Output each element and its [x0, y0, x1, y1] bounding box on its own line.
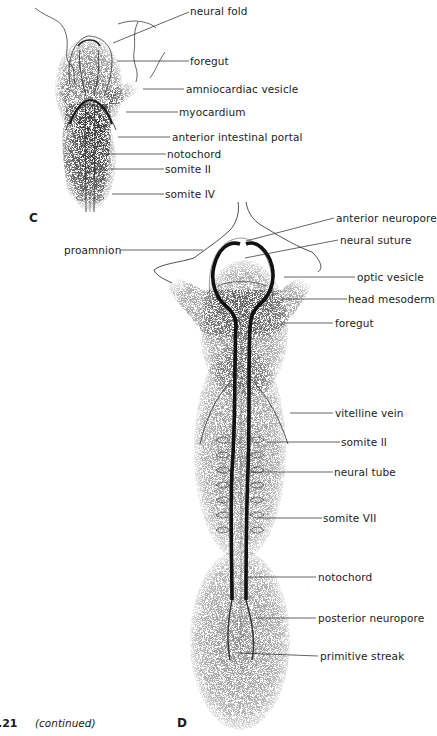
label-c-somite-ii: somite II — [165, 163, 211, 175]
label-d-notochord: notochord — [318, 571, 372, 583]
label-d-head-mesoderm: head mesoderm — [348, 293, 435, 305]
label-d-proamnion: proamnion — [64, 244, 121, 256]
label-c-foregut: foregut — [190, 55, 229, 67]
label-d-neural-suture: neural suture — [340, 234, 412, 246]
label-d-anterior-neuropore: anterior neuropore — [336, 212, 437, 224]
label-d-neural-tube: neural tube — [334, 466, 396, 478]
panel-letter-d: D — [177, 716, 187, 730]
label-d-primitive-streak: primitive streak — [320, 650, 404, 662]
label-c-notochord: notochord — [167, 148, 221, 160]
figure-number: .21 — [0, 717, 18, 730]
label-c-neural-fold: neural fold — [190, 5, 248, 17]
label-d-posterior-neuropore: posterior neuropore — [318, 612, 424, 624]
label-d-somite-vii: somite VII — [323, 512, 376, 524]
embryo-c — [35, 8, 189, 212]
label-d-optic-vesicle: optic vesicle — [357, 271, 424, 283]
label-d-somite-ii: somite II — [341, 436, 387, 448]
label-c-somite-iv: somite IV — [165, 188, 215, 200]
panel-letter-c: C — [29, 211, 38, 225]
label-d-foregut: foregut — [335, 317, 374, 329]
label-c-amniocardiac-vesicle: amniocardiac vesicle — [186, 83, 298, 95]
label-d-vitelline-vein: vitelline vein — [335, 407, 404, 419]
label-c-myocardium: myocardium — [179, 106, 246, 118]
figure-continued-label: (continued) — [35, 717, 96, 729]
label-c-anterior-intestinal-portal: anterior intestinal portal — [172, 131, 302, 143]
